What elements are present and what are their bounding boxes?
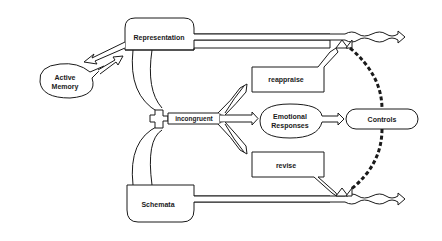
lower-output-wavy-arrow — [194, 193, 405, 205]
schemata-to-incongruent-channel — [132, 126, 162, 185]
incongruent-label: incongruent — [175, 115, 213, 123]
lower-gate — [336, 188, 352, 196]
memory-representation-arrow — [84, 42, 125, 74]
controls-label: Controls — [368, 116, 397, 123]
reappraise-label: reappraise — [268, 76, 304, 84]
incongruent-branch-arrows — [218, 84, 258, 154]
schemata-label: Schemata — [141, 201, 174, 208]
revise-label: revise — [276, 162, 296, 169]
active-memory-label-2: Memory — [52, 83, 79, 91]
revise-node — [252, 152, 338, 197]
emotion-model-diagram: Representation Active Memory Schemata in… — [0, 0, 442, 241]
emotional-label-1: Emotional — [273, 113, 307, 120]
active-memory-label-1: Active — [54, 74, 75, 81]
emotional-label-2: Responses — [271, 122, 308, 130]
emotional-responses-node — [260, 104, 344, 138]
representation-to-incongruent-channel — [132, 50, 162, 112]
reappraise-node — [252, 48, 338, 92]
representation-label: Representation — [134, 34, 185, 42]
